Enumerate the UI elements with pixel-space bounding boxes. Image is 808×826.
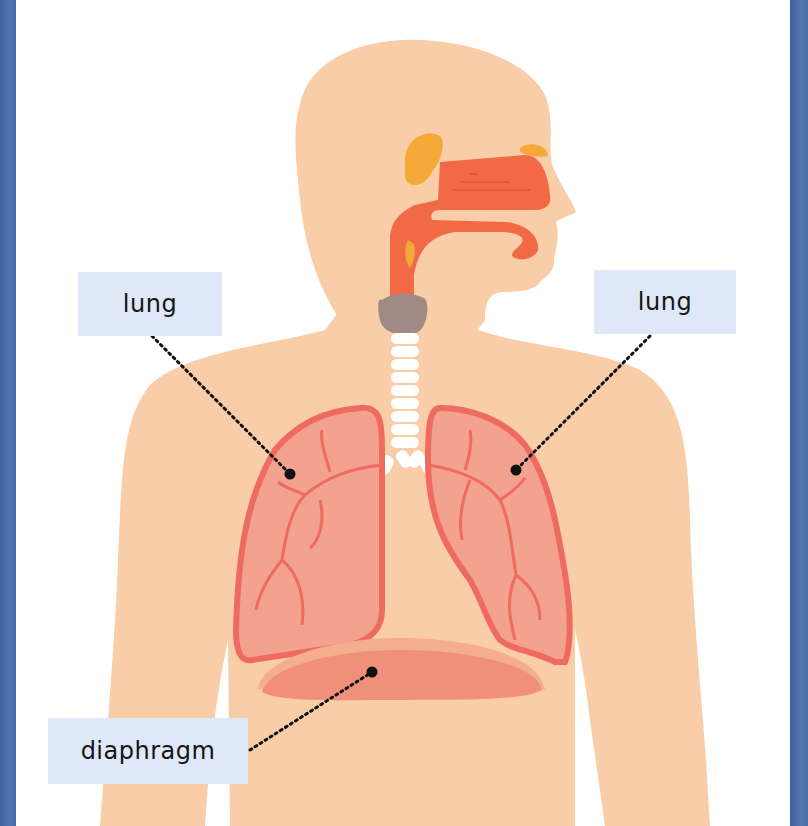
- decorative-border-left: [0, 0, 16, 826]
- respiratory-diagram: [16, 0, 790, 826]
- decorative-border-right: [790, 0, 808, 826]
- pointer-dot-lung-left: [285, 469, 296, 480]
- diagram-page: lung lung diaphragm: [16, 0, 790, 826]
- pointer-dot-diaphragm: [367, 667, 378, 678]
- label-diaphragm: diaphragm: [48, 718, 248, 784]
- label-lung-left: lung: [78, 272, 222, 336]
- larynx: [378, 294, 427, 335]
- pointer-dot-lung-right: [511, 465, 522, 476]
- label-lung-right: lung: [594, 270, 736, 334]
